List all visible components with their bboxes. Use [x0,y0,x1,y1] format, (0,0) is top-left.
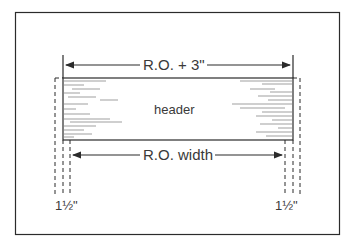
top-dimension-label: R.O. + 3" [141,57,207,72]
wood-grain-left [64,81,122,137]
header-label: header [154,103,194,116]
wood-grain-right [232,81,292,136]
header-dimension-diagram [0,0,353,246]
right-offset-label: 1½" [275,199,298,212]
bottom-dimension-label: R.O. width [141,147,215,162]
left-offset-label: 1½" [55,199,78,212]
